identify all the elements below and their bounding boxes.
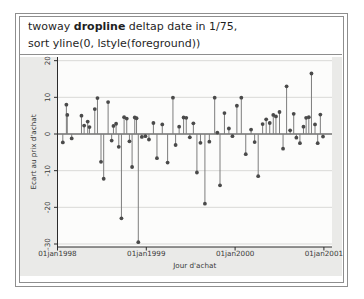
data-point (191, 121, 195, 125)
data-point (155, 156, 159, 160)
data-point (130, 165, 134, 169)
y-tick-labels: 20100-10-20-30 (43, 56, 58, 250)
data-point (268, 121, 272, 125)
data-point (160, 123, 164, 127)
data-point (213, 96, 217, 100)
data-point (82, 124, 86, 128)
data-point (253, 140, 257, 144)
data-point (64, 103, 68, 107)
data-point (86, 120, 90, 124)
svg-text:-10: -10 (43, 164, 52, 176)
data-point (231, 134, 235, 138)
svg-text:-20: -20 (43, 201, 52, 213)
data-point (207, 140, 211, 144)
data-point (140, 135, 144, 139)
data-point (298, 141, 302, 145)
data-point (281, 147, 285, 151)
data-point (110, 139, 114, 143)
data-point (106, 100, 110, 104)
data-point (316, 141, 320, 145)
data-point (235, 104, 239, 108)
data-point (117, 145, 121, 149)
data-point (294, 136, 298, 140)
data-point (249, 128, 253, 132)
data-point (177, 125, 181, 129)
y-axis-title: Ecart au prix d'achat (29, 114, 38, 189)
data-point (144, 134, 148, 138)
data-point (99, 160, 103, 164)
data-point (174, 143, 178, 147)
data-point (227, 127, 231, 131)
data-point (203, 202, 207, 206)
x-axis-title: Jour d'achat (172, 261, 216, 270)
svg-text:10: 10 (43, 92, 52, 102)
data-point (318, 113, 322, 117)
x-tick-labels: 01jan199801jan199901jan200001jan2001 (38, 247, 343, 258)
data-point (80, 114, 84, 118)
svg-text:01jan1999: 01jan1999 (127, 249, 166, 258)
data-point (199, 141, 203, 145)
data-point (302, 125, 306, 129)
data-point (70, 137, 74, 141)
data-point (88, 125, 92, 129)
data-point (135, 116, 139, 120)
data-point (195, 171, 199, 175)
data-point (147, 138, 151, 142)
data-point (93, 107, 97, 111)
data-point (96, 96, 100, 100)
data-point (321, 135, 325, 139)
data-point (313, 123, 317, 127)
data-point (307, 115, 311, 119)
data-point (239, 96, 243, 100)
svg-text:01jan2001: 01jan2001 (305, 249, 343, 258)
data-point (244, 152, 248, 156)
data-point (136, 240, 140, 244)
data-point (218, 183, 222, 187)
data-point (166, 161, 170, 165)
data-point (171, 96, 175, 100)
data-point (120, 216, 124, 220)
plot-region (58, 57, 333, 247)
data-point (278, 110, 282, 114)
data-point (274, 114, 278, 118)
svg-text:01jan2000: 01jan2000 (216, 249, 255, 258)
data-point (288, 128, 292, 132)
data-point (292, 112, 296, 116)
data-point (261, 122, 265, 126)
data-point (256, 174, 260, 178)
data-point (285, 84, 289, 88)
data-point (114, 122, 118, 126)
data-point (184, 116, 188, 120)
svg-text:20: 20 (43, 56, 52, 66)
figure: twoway dropline deltap date in 1/75, sor… (0, 0, 364, 299)
data-point (223, 111, 227, 115)
dropline-chart: 20100-10-20-3001jan199801jan199901jan200… (0, 0, 364, 299)
data-point (61, 141, 65, 145)
data-point (310, 72, 314, 76)
data-point (65, 113, 69, 117)
svg-text:0: 0 (43, 131, 52, 136)
data-point (152, 121, 156, 125)
data-point (128, 139, 132, 143)
data-point (215, 131, 219, 135)
data-point (188, 135, 192, 139)
data-point (102, 177, 106, 181)
data-point (264, 117, 268, 121)
svg-text:01jan1998: 01jan1998 (38, 249, 77, 258)
data-point (125, 117, 129, 121)
